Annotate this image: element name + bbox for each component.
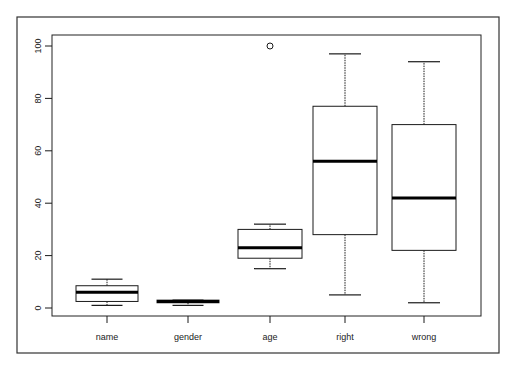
y-tick-label: 20	[33, 251, 43, 261]
iqr-box	[392, 125, 456, 251]
x-tick-label: right	[336, 332, 354, 342]
iqr-box	[313, 106, 377, 234]
y-tick-label: 40	[33, 198, 43, 208]
iqr-box	[238, 229, 302, 258]
y-tick-label: 60	[33, 146, 43, 156]
y-tick-label: 100	[33, 38, 43, 53]
y-tick-label: 0	[33, 305, 43, 310]
x-tick-label: wrong	[411, 332, 437, 342]
boxplot-chart: 020406080100 namegenderagerightwrong	[0, 0, 514, 373]
x-tick-label: gender	[174, 332, 202, 342]
x-tick-label: age	[262, 332, 277, 342]
x-tick-label: name	[96, 332, 119, 342]
y-tick-label: 80	[33, 93, 43, 103]
